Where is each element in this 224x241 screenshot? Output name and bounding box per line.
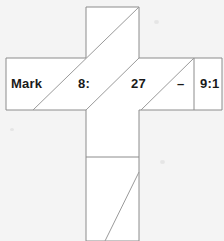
label-range-dash: – (177, 77, 184, 90)
cross-outline-shape (6, 7, 222, 241)
cross-figure (0, 0, 224, 241)
label-chapter: 8: (78, 77, 90, 90)
label-book: Mark (11, 77, 42, 90)
figure-screenshot: Mark 8: 27 – 9:1 (0, 0, 224, 241)
label-verse-start: 27 (131, 77, 146, 90)
label-verse-end: 9:1 (200, 77, 219, 90)
